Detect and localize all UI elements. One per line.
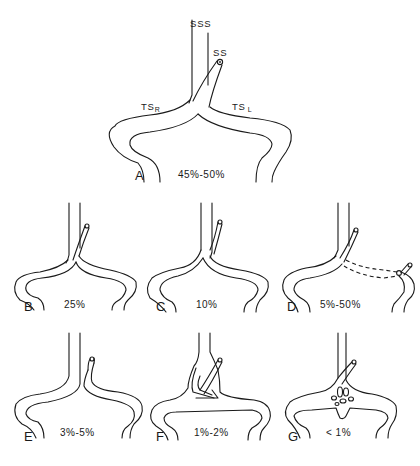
panel-b: B 25% [15, 203, 137, 314]
panel-letter: F [156, 429, 164, 444]
plexus-channel [340, 399, 346, 403]
hypoplastic-connection-upper [346, 260, 397, 272]
ss-label: SS [213, 47, 227, 58]
ss-upper-wall [193, 61, 217, 101]
ss-end-dot [219, 61, 221, 63]
ss-lower-wall [91, 363, 142, 438]
ts-right-outer-wall [15, 260, 68, 310]
hypoplastic-connection-lower [344, 266, 397, 278]
ss-end-circle [218, 220, 222, 224]
panel-percent: 25% [64, 299, 86, 310]
sss-label: SSS [190, 18, 211, 29]
panel-percent: < 1% [326, 427, 351, 438]
panel-a: SSS SS TSR TSL A 45%-50% [109, 18, 291, 183]
sss-left-wall [334, 203, 338, 258]
ss-lower-wall [342, 364, 356, 384]
sss-left-wall [15, 333, 69, 438]
panel-f: F 1%-2% [151, 333, 271, 444]
panel-letter: G [288, 429, 298, 444]
plexus-channel [332, 396, 337, 400]
ss-end-circle [218, 358, 222, 362]
panel-letter: A [135, 168, 144, 183]
ts-left-outer-wall [210, 256, 268, 312]
panel-g: G < 1% [285, 333, 396, 444]
sss-right-wall [26, 333, 80, 438]
ss-upper-wall [340, 230, 354, 258]
panel-d: D 5%-50% [283, 203, 415, 314]
sss-right-wall [210, 333, 270, 440]
plexus-channel [335, 403, 339, 406]
ts-right-label: TSR [141, 101, 161, 113]
sss-left-wall [285, 333, 338, 438]
panel-c: C 10% [147, 203, 268, 314]
panel-percent: 5%-50% [320, 299, 361, 310]
ss-lower-wall [214, 224, 222, 254]
sss-left-wall [189, 20, 192, 103]
panel-letter: B [24, 299, 33, 314]
ts-left-label: TSL [232, 101, 252, 113]
plexus-channel [344, 388, 349, 396]
ts-left-inner-wall [392, 276, 404, 312]
panel-percent: 45%-50% [178, 169, 225, 180]
ts-left-outer-wall [401, 272, 414, 312]
ss-lower-wall [209, 65, 222, 107]
ts-left-outer-wall [79, 256, 136, 310]
ss-end-circle [90, 357, 94, 361]
ss-end-circle [85, 224, 89, 228]
sss-left-wall [66, 203, 69, 263]
panel-e: E 3%-5% [15, 333, 142, 444]
panel-letter: E [24, 429, 33, 444]
ss-upper-wall [338, 362, 352, 378]
stump-end-circle [408, 263, 412, 267]
venous-confluence-diagram: SSS SS TSR TSL A 45%-50% B 25% C 10% [0, 0, 420, 466]
ss-end-circle [354, 228, 358, 232]
plexus-channel [338, 387, 343, 397]
panel-letter: C [156, 299, 165, 314]
left-ts-stump-circle [397, 271, 402, 276]
panel-percent: 1%-2% [194, 427, 229, 438]
plexus-channel [349, 397, 354, 401]
panel-percent: 3%-5% [60, 427, 95, 438]
panel-letter: D [287, 299, 296, 314]
sss-right-wall [346, 333, 397, 438]
ss-end-circle [352, 360, 356, 364]
panel-percent: 10% [196, 299, 218, 310]
